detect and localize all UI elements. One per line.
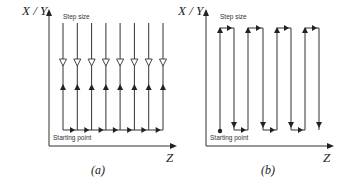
caption-a: (a) bbox=[91, 163, 105, 178]
y-axis-arrow-icon bbox=[203, 9, 209, 16]
scan-path-diagram bbox=[0, 0, 352, 187]
serpentine-scan-path bbox=[220, 28, 319, 131]
x-axis-label-b: Z bbox=[323, 150, 330, 166]
scan-lines-a bbox=[60, 23, 167, 133]
x-axis-label-a: Z bbox=[166, 150, 173, 166]
figure-a bbox=[46, 9, 177, 149]
x-axis-arrow-icon bbox=[170, 143, 177, 149]
starting-point-label-a: Starting point bbox=[53, 134, 91, 141]
filled-up-arrow-icon bbox=[60, 84, 166, 90]
caption-b: (b) bbox=[261, 163, 275, 178]
figure-b bbox=[203, 9, 334, 149]
open-down-arrow-icon bbox=[60, 59, 167, 66]
x-axis-arrow-icon bbox=[327, 143, 334, 149]
y-axis-label-a: X / Y bbox=[22, 3, 47, 19]
step-size-label-b: Step size bbox=[220, 13, 247, 20]
step-size-label-a: Step size bbox=[63, 13, 90, 20]
starting-point-dot bbox=[218, 129, 222, 133]
starting-point-label-b: Starting point bbox=[210, 134, 248, 141]
y-axis-label-b: X / Y bbox=[178, 3, 203, 19]
